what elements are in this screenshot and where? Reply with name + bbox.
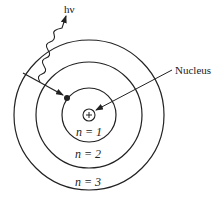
- transition-arrow: [23, 73, 63, 95]
- orbit-label-n3: n = 3: [75, 176, 101, 188]
- orbit-label-n1: n = 1: [76, 126, 102, 138]
- nucleus-label: Nucleus: [175, 65, 211, 76]
- photon-label: hν: [64, 4, 74, 15]
- nucleus-pointer: [96, 70, 172, 110]
- orbit-label-n2: n = 2: [75, 148, 101, 160]
- electron: [64, 95, 70, 101]
- bohr-atom-diagram: [0, 0, 223, 205]
